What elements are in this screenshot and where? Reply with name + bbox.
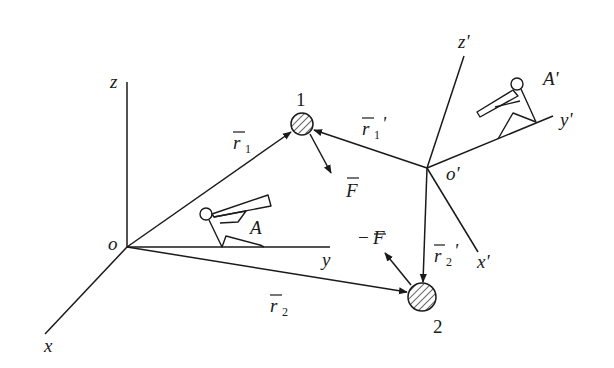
svg-text:F: F: [345, 180, 358, 201]
particle-1-label: 1: [296, 89, 306, 110]
vector-r2-prime: [423, 168, 427, 282]
vector-r2: [127, 247, 407, 292]
x-axis: [45, 247, 127, 334]
z-axis-label: z: [109, 71, 118, 92]
observer-a-figure: A: [200, 195, 271, 247]
svg-text:2: 2: [446, 255, 452, 269]
observer-a-prime-figure: A': [477, 68, 560, 139]
svg-text:': ': [382, 113, 387, 134]
observer-a-label: A: [248, 217, 262, 238]
force-neg-f-arrow: [385, 253, 411, 285]
y-prime-axis: [427, 116, 553, 168]
y-axis-label: y: [320, 249, 331, 270]
force-f-label: F: [345, 178, 359, 201]
force-neg-f-label: − F: [358, 227, 386, 248]
svg-text:2: 2: [282, 305, 288, 319]
svg-text:': ': [454, 240, 459, 261]
particle-2-label: 2: [433, 316, 443, 337]
svg-text:1: 1: [374, 128, 380, 142]
svg-text:r: r: [434, 245, 442, 266]
svg-text:r: r: [270, 295, 278, 316]
position-vectors: r 1 r 2 r 1 ' r 2 ': [127, 113, 459, 319]
z-prime-axis: [427, 56, 464, 168]
svg-text:1: 1: [245, 142, 251, 156]
y-prime-axis-label: y': [558, 109, 573, 130]
svg-text:r: r: [362, 118, 370, 139]
observer-a-prime-label: A': [541, 68, 560, 89]
force-f-arrow: [310, 134, 331, 173]
vector-r1-prime: [314, 130, 427, 168]
particle-2: 2: [408, 283, 443, 337]
svg-text:r: r: [233, 132, 241, 153]
z-prime-axis-label: z': [457, 31, 470, 52]
origin-label: o: [108, 233, 118, 254]
particle-1: 1: [291, 89, 313, 135]
two-particle-frames-diagram: z y x o A z' y' x' o' A': [0, 0, 614, 368]
r1-prime-label: r 1 ': [362, 113, 387, 142]
r2-prime-label: r 2 ': [434, 240, 459, 269]
svg-text:−: −: [358, 227, 369, 248]
x-prime-axis-label: x': [476, 251, 490, 272]
origin-prime-label: o': [446, 163, 461, 184]
r1-label: r 1: [233, 132, 251, 156]
vector-r1: [127, 132, 291, 247]
svg-text:F: F: [372, 227, 385, 248]
x-axis-label: x: [43, 335, 53, 356]
r2-label: r 2: [270, 295, 288, 319]
